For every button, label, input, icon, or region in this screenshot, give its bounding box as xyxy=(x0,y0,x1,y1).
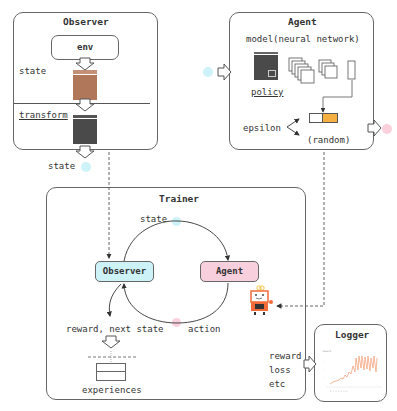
action-label: action xyxy=(188,324,221,334)
transformed-state-frame xyxy=(73,118,97,144)
epsilon-label: epsilon xyxy=(243,123,281,133)
experience-buffer xyxy=(96,363,126,381)
transformed-state-frame-header xyxy=(73,115,97,119)
action-dot-trainer xyxy=(172,318,181,327)
random-label: (random) xyxy=(307,135,350,145)
logger-metric-loss: loss xyxy=(269,365,291,375)
policy-network-image-header xyxy=(254,52,278,55)
experience-buffer-divider xyxy=(96,371,126,372)
state-dot xyxy=(81,162,91,172)
observer-output-state-label: state xyxy=(48,161,75,171)
logger-metric-reward: reward xyxy=(269,351,302,361)
model-label: model(neural network) xyxy=(246,34,360,44)
action-dot xyxy=(382,124,392,134)
env-state-frame xyxy=(73,71,97,100)
env-state-frame-header xyxy=(73,70,97,75)
env-label: env xyxy=(77,42,93,52)
policy-kernel-window xyxy=(268,70,276,77)
observer-title: Observer xyxy=(63,16,109,27)
trainer-title: Trainer xyxy=(159,193,199,204)
experiences-label: experiences xyxy=(82,385,142,395)
logger-metric-etc: etc xyxy=(269,379,285,389)
state-dot-agent-input xyxy=(203,67,213,77)
observer-node[interactable]: Observer xyxy=(95,261,154,282)
logger-title: Logger xyxy=(335,329,369,340)
trainer-state-label: state xyxy=(140,214,167,224)
trainer-state-dot xyxy=(172,217,181,226)
reward-next-state-label: reward, next state xyxy=(66,324,164,334)
observer-divider xyxy=(14,103,150,104)
agent-title: Agent xyxy=(288,16,317,27)
action-vector-cell-selected xyxy=(322,113,338,123)
observer-state-label: state xyxy=(19,66,46,76)
action-vector-cell-1 xyxy=(309,113,323,123)
policy-label: policy xyxy=(251,87,284,97)
agent-node[interactable]: Agent xyxy=(200,261,259,282)
transform-label: transform xyxy=(19,110,68,120)
